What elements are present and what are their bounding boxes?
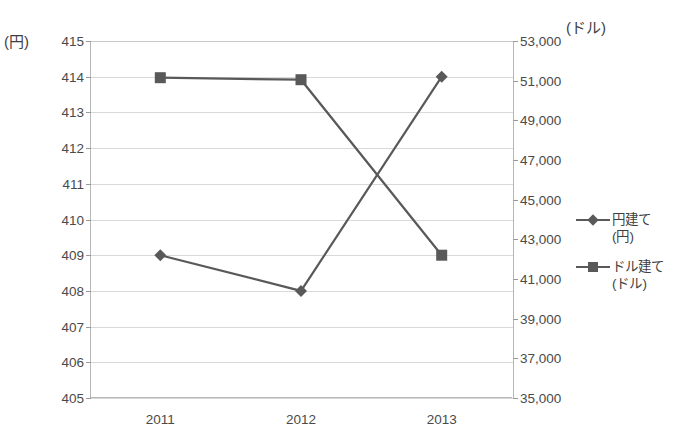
- right-axis-tick-label: 45,000: [520, 192, 582, 207]
- left-axis-tick-label: 407: [28, 319, 84, 334]
- right-axis-tick: [513, 398, 518, 399]
- left-axis-tick: [86, 220, 91, 221]
- chart-title-cropped: [60, 0, 640, 8]
- legend-label-yen: 円建て: [612, 212, 651, 229]
- x-axis-tick-label: 2013: [427, 412, 457, 427]
- right-axis-tick-label: 41,000: [520, 272, 582, 287]
- plot-area: [90, 41, 512, 398]
- legend-sublabel-dollar: (ドル): [612, 276, 692, 293]
- right-axis-tick-label: 39,000: [520, 311, 582, 326]
- left-axis-tick-label: 413: [28, 105, 84, 120]
- left-axis-tick-label: 406: [28, 355, 84, 370]
- gridline: [91, 112, 513, 113]
- gridline: [91, 398, 513, 399]
- left-axis-tick: [86, 184, 91, 185]
- gridline: [91, 255, 513, 256]
- left-axis-tick: [86, 77, 91, 78]
- x-axis-tick-label: 2012: [286, 412, 316, 427]
- left-axis-tick: [86, 291, 91, 292]
- left-axis-tick-label: 409: [28, 248, 84, 263]
- right-axis-tick: [513, 81, 518, 82]
- left-axis-tick-label: 408: [28, 283, 84, 298]
- gridline: [91, 184, 513, 185]
- left-axis-tick-label: 410: [28, 212, 84, 227]
- legend-label-dollar: ドル建て: [612, 259, 664, 276]
- left-axis-tick: [86, 255, 91, 256]
- right-axis-tick-label: 37,000: [520, 351, 582, 366]
- right-axis-tick-label: 35,000: [520, 391, 582, 406]
- right-axis-tick-label: 53,000: [520, 34, 582, 49]
- legend-entry-dollar[interactable]: ドル建て (ドル): [576, 259, 692, 293]
- left-axis-tick-label: 414: [28, 69, 84, 84]
- gridline: [91, 220, 513, 221]
- left-axis-tick-label: 415: [28, 34, 84, 49]
- left-axis-tick-label: 405: [28, 391, 84, 406]
- left-axis-tick: [86, 41, 91, 42]
- left-axis-tick: [86, 112, 91, 113]
- right-axis-tick: [513, 160, 518, 161]
- gridline: [91, 362, 513, 363]
- right-axis-line: [513, 41, 514, 398]
- gridline: [91, 291, 513, 292]
- right-axis-tick: [513, 41, 518, 42]
- right-axis-tick: [513, 239, 518, 240]
- left-axis-tick: [86, 398, 91, 399]
- left-axis-tick: [86, 148, 91, 149]
- chart-legend: 円建て (円) ドル建て (ドル): [576, 212, 692, 306]
- right-axis-tick: [513, 358, 518, 359]
- right-axis-tick: [513, 279, 518, 280]
- legend-entry-yen[interactable]: 円建て (円): [576, 212, 692, 246]
- gridline: [91, 41, 513, 42]
- x-axis-tick-label: 2011: [146, 412, 175, 427]
- right-axis-tick: [513, 319, 518, 320]
- right-axis-tick-label: 43,000: [520, 232, 582, 247]
- right-axis-tick-label: 47,000: [520, 153, 582, 168]
- legend-sublabel-yen: (円): [612, 229, 692, 246]
- legend-marker-diamond-icon: [576, 213, 610, 227]
- left-axis-tick-label: 411: [28, 176, 84, 191]
- gridline: [91, 77, 513, 78]
- left-axis-tick-label: 412: [28, 141, 84, 156]
- right-axis-tick-label: 51,000: [520, 73, 582, 88]
- gridline: [91, 327, 513, 328]
- right-axis-tick: [513, 120, 518, 121]
- left-axis-tick: [86, 362, 91, 363]
- chart-container: (円) (ドル) 円建て (円) ドル建て (ドル) 4054064074084: [0, 0, 692, 444]
- right-axis-tick: [513, 200, 518, 201]
- gridline: [91, 148, 513, 149]
- left-axis-tick: [86, 327, 91, 328]
- right-axis-tick-label: 49,000: [520, 113, 582, 128]
- left-axis-unit-label: (円): [4, 30, 29, 51]
